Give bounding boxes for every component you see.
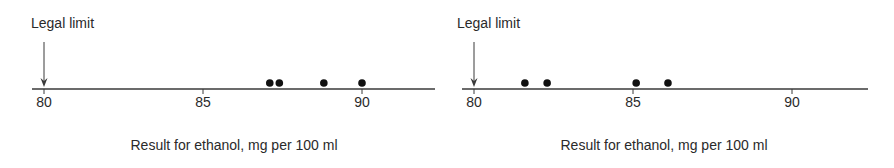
data-point	[358, 79, 366, 87]
tick-label-90: 90	[354, 94, 370, 110]
tick-label-80: 80	[466, 94, 482, 110]
x-axis-label: Result for ethanol, mg per 100 ml	[561, 137, 768, 153]
data-point	[521, 79, 529, 87]
tick-label-80: 80	[36, 94, 52, 110]
data-point	[543, 79, 551, 87]
x-axis-label: Result for ethanol, mg per 100 ml	[131, 137, 338, 153]
tick-label-85: 85	[625, 94, 641, 110]
legal-limit-label: Legal limit	[31, 15, 94, 31]
data-point	[320, 79, 328, 87]
data-point	[664, 79, 672, 87]
data-point	[632, 79, 640, 87]
chart-right: Legal limit 80 85 90 Result for ethanol,…	[430, 0, 894, 168]
legal-limit-label: Legal limit	[457, 15, 520, 31]
data-point	[276, 79, 284, 87]
tick-label-90: 90	[784, 94, 800, 110]
tick-label-85: 85	[195, 94, 211, 110]
chart-left: Legal limit 80 85 90 Result for ethanol,…	[0, 0, 447, 168]
data-point	[266, 79, 274, 87]
